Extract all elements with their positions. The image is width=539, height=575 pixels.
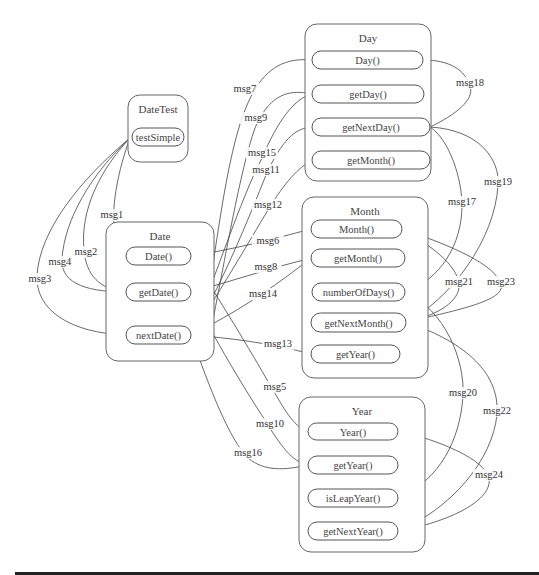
- message-label-msg13: msg13: [264, 338, 292, 349]
- class-title: Month: [350, 205, 380, 217]
- message-label-msg18: msg18: [456, 77, 484, 88]
- method-label: numberOfDays(): [323, 287, 395, 299]
- method-getmonthday: getMonth(): [312, 151, 430, 169]
- method-getmonth: getMonth(): [311, 249, 405, 267]
- method-label: Year(): [340, 427, 367, 439]
- method-label: getYear(): [336, 349, 376, 361]
- method-getdate: getDate(): [126, 283, 191, 301]
- method-getnextyear: getNextYear(): [308, 522, 398, 540]
- method-label: getNextMonth(): [324, 318, 393, 330]
- message-labels: msg1msg2msg4msg3msg7msg9msg15msg11msg12m…: [24, 77, 517, 481]
- message-label-msg11: msg11: [252, 164, 280, 175]
- method-getyearmonth: getYear(): [311, 345, 400, 363]
- method-year: Year(): [308, 423, 398, 440]
- class-title: Year: [352, 405, 373, 417]
- method-isleapyear: isLeapYear(): [308, 489, 398, 507]
- method-label: getDate(): [139, 287, 179, 299]
- message-label-msg9: msg9: [245, 112, 268, 123]
- class-year: YearYear()getYear()isLeapYear()getNextYe…: [299, 397, 425, 552]
- method-label: testSimple: [136, 132, 181, 143]
- method-date: Date(): [126, 247, 191, 265]
- method-label: nextDate(): [136, 330, 181, 342]
- method-label: getNextDay(): [342, 122, 400, 134]
- message-label-msg6: msg6: [257, 235, 280, 246]
- message-label-msg21: msg21: [445, 276, 473, 287]
- message-label-msg1: msg1: [101, 209, 124, 220]
- method-numberofdays: numberOfDays(): [312, 283, 405, 301]
- message-label-msg2: msg2: [75, 246, 98, 257]
- class-title: Day: [359, 32, 378, 44]
- method-getday: getDay(): [312, 85, 424, 103]
- class-datetest: DateTesttestSimple: [128, 95, 188, 162]
- message-label-msg16: msg16: [234, 447, 262, 458]
- method-label: getMonth(): [334, 253, 382, 265]
- method-label: getMonth(): [347, 155, 395, 167]
- message-label-msg20: msg20: [449, 387, 477, 398]
- message-label-msg4: msg4: [49, 256, 73, 267]
- message-label-msg15: msg15: [248, 147, 276, 158]
- method-label: Day(): [355, 55, 380, 67]
- message-label-msg19: msg19: [484, 176, 512, 187]
- method-month: Month(): [311, 220, 402, 238]
- class-title: Date: [150, 230, 171, 242]
- message-label-msg17: msg17: [448, 196, 476, 207]
- message-label-msg8: msg8: [255, 261, 278, 272]
- class-day: DayDay()getDay()getNextDay()getMonth(): [305, 24, 431, 181]
- message-label-msg23: msg23: [487, 276, 515, 287]
- method-label: getDay(): [349, 89, 387, 101]
- message-label-msg3: msg3: [29, 273, 52, 284]
- method-getnextday: getNextDay(): [312, 118, 430, 136]
- sequence-collaboration-diagram: DateTesttestSimpleDateDate()getDate()nex…: [0, 0, 539, 575]
- message-label-msg12: msg12: [254, 199, 282, 210]
- class-month: MonthMonth()getMonth()numberOfDays()getN…: [302, 197, 428, 378]
- method-getyear: getYear(): [308, 456, 398, 474]
- message-label-msg7: msg7: [234, 83, 257, 94]
- message-label-msg5: msg5: [264, 381, 287, 392]
- method-nextdate: nextDate(): [126, 326, 191, 344]
- message-label-msg10: msg10: [256, 418, 284, 429]
- message-label-msg14: msg14: [249, 288, 278, 299]
- method-label: getNextYear(): [323, 526, 383, 538]
- method-label: Date(): [145, 251, 172, 263]
- method-testsimple: testSimple: [132, 128, 184, 146]
- method-label: Month(): [339, 224, 375, 236]
- class-title: DateTest: [139, 103, 178, 115]
- method-day: Day(): [312, 51, 423, 69]
- class-date: DateDate()getDate()nextDate(): [106, 222, 214, 361]
- message-label-msg22: msg22: [483, 405, 511, 416]
- method-getnextmonth: getNextMonth(): [311, 313, 406, 332]
- message-label-msg24: msg24: [475, 469, 504, 480]
- method-label: isLeapYear(): [326, 493, 381, 505]
- method-label: getYear(): [333, 460, 373, 472]
